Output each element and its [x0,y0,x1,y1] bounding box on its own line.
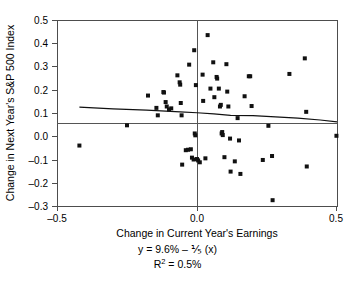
data-point [193,133,197,137]
data-point [236,116,240,120]
chart-caption: y = 9.6% – ⅕ (x) R2 = 0.5% [0,242,355,272]
data-point [228,137,232,141]
data-point [156,113,160,117]
data-point [226,104,230,108]
x-tick-label: –0.5 [47,213,67,224]
data-point [217,87,221,91]
data-point [179,101,183,105]
equation-line: y = 9.6% – ⅕ (x) [0,242,355,257]
data-point [192,48,196,52]
data-point [248,74,252,78]
data-point [270,154,274,158]
data-point [169,106,173,110]
data-point [211,60,215,64]
data-point [77,144,81,148]
data-point [201,99,205,103]
data-point [146,94,150,98]
data-point [154,106,158,110]
data-point [229,170,233,174]
data-point [334,134,338,138]
y-tick-label: 0.1 [34,108,48,119]
data-point [221,133,225,137]
data-point [238,172,242,176]
data-point [125,123,129,127]
data-point [206,33,210,37]
data-point [287,72,291,76]
data-point [208,87,212,91]
data-point [180,113,184,117]
y-tick-label: 0.0 [34,131,48,142]
data-point [243,94,247,98]
data-point [222,155,226,159]
x-axis-tick-labels: –0.5 0.0 0.5 [47,213,343,224]
x-tick-label: 0.0 [190,213,204,224]
r-squared-value: = 0.5% [165,258,201,270]
data-point [303,56,307,60]
r-squared-line: R2 = 0.5% [0,257,355,272]
data-point [304,110,308,114]
data-point [212,95,216,99]
regression-line [79,107,337,122]
data-point [271,198,275,202]
data-point [187,63,191,67]
y-tick-label: –0.1 [29,155,49,166]
x-axis-label: Change in Current Year's Earnings [116,227,277,239]
equation-lhs: y = 9.6% – [138,243,191,255]
x-tick-label: 0.5 [329,213,343,224]
data-point [178,83,182,87]
data-point [164,100,168,104]
data-point [215,77,219,81]
data-point [250,104,254,108]
y-axis-ticks [52,21,57,207]
y-tick-label: 0.5 [34,15,48,26]
y-tick-label: 0.3 [34,61,48,72]
data-point [180,163,184,167]
data-point [162,91,166,95]
data-point [266,124,270,128]
data-point [194,83,198,87]
data-point [261,158,265,162]
scatter-plot-figure: 0.5 0.4 0.3 0.2 0.1 0.0 –0.1 –0.2 –0.3 –… [0,0,355,290]
y-axis-tick-labels: 0.5 0.4 0.3 0.2 0.1 0.0 –0.1 –0.2 –0.3 [29,15,49,212]
data-point [305,164,309,168]
data-point [201,73,205,77]
data-point [233,159,237,163]
y-axis-label: Change in Next Year's S&P 500 Index [4,24,16,201]
data-point [203,156,207,160]
y-tick-label: 0.4 [34,38,48,49]
data-point [175,73,179,77]
x-axis-ticks [58,206,337,211]
data-point [224,62,228,66]
data-point [198,160,202,164]
equation-fraction: ⅕ [191,243,202,255]
data-point [225,90,229,94]
data-point [219,103,223,107]
y-tick-label: 0.2 [34,85,48,96]
y-tick-label: –0.2 [29,178,49,189]
data-point [237,138,241,142]
data-point [189,147,193,151]
equation-rhs: (x) [202,243,217,255]
y-tick-label: –0.3 [29,201,49,212]
